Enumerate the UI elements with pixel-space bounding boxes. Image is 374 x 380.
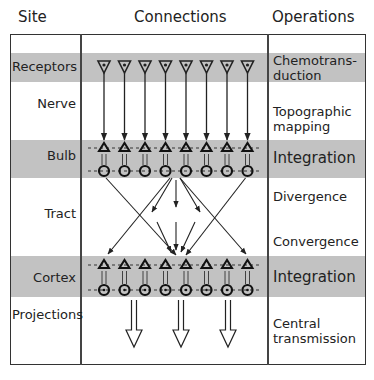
connections-diagram	[0, 0, 374, 380]
receptor-cells	[98, 61, 254, 73]
projection-arrows	[126, 300, 236, 347]
tract-arrows	[106, 178, 246, 255]
bulb-cells	[88, 143, 262, 176]
cortex-cells	[88, 260, 262, 295]
nerve-fibers	[104, 73, 248, 140]
